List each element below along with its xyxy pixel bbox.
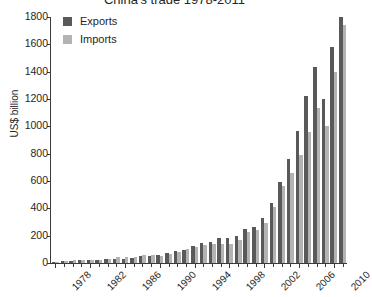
bar-imports-1981 [81,260,84,263]
bar-imports-2007 [308,132,311,263]
x-tick-mark [90,263,91,268]
x-tick-mark [317,263,318,267]
bar-imports-1995 [203,245,206,263]
x-tick-mark [247,263,248,267]
x-tick-mark [108,263,109,267]
bar-imports-1990 [160,256,163,263]
x-tick-mark [308,263,309,267]
x-tick-mark [81,263,82,267]
x-tick-label: 1994 [209,269,233,293]
y-tick-label: 1800 [25,10,48,22]
y-tick-label: 0 [42,256,48,268]
x-tick-mark [299,263,300,268]
y-tick-label: 200 [30,229,48,241]
x-tick-mark [169,263,170,267]
legend-swatch-imports-icon [63,35,72,44]
x-tick-mark [125,263,126,268]
y-tick-label: 1200 [25,92,48,104]
x-tick-mark [273,263,274,267]
bar-imports-1996 [212,244,215,263]
bar-imports-2006 [299,155,302,263]
legend-item-imports: Imports [63,31,117,47]
bar-imports-1997 [221,244,224,263]
bar-imports-2001 [256,230,259,263]
x-tick-mark [186,263,187,267]
bar-imports-1980 [73,260,76,263]
x-tick-mark [142,263,143,267]
x-tick-label: 1998 [244,269,268,293]
bar-imports-1993 [186,249,189,263]
bar-imports-2008 [317,108,320,263]
bar-imports-1987 [134,257,137,263]
x-tick-mark [256,263,257,267]
x-tick-mark [325,263,326,267]
bar-imports-1994 [195,247,198,263]
legend-label-imports: Imports [80,33,117,45]
y-tick-label: 600 [30,174,48,186]
x-tick-mark [221,263,222,267]
bar-imports-1979 [64,261,67,263]
chart-legend: Exports Imports [63,13,117,49]
x-tick-mark [134,263,135,267]
x-tick-mark [151,263,152,267]
x-tick-label: 1982 [105,269,129,293]
bar-imports-1986 [125,257,128,263]
x-tick-mark [55,263,56,268]
x-tick-label: 2006 [314,269,338,293]
legend-label-exports: Exports [80,15,117,27]
bar-imports-2011 [343,25,346,263]
x-tick-mark [238,263,239,267]
bar-imports-1988 [142,255,145,263]
x-tick-mark [212,263,213,267]
bar-imports-1982 [90,260,93,263]
x-tick-mark [264,263,265,268]
x-tick-mark [334,263,335,268]
bar-imports-1983 [99,260,102,263]
x-tick-label: 2002 [279,269,303,293]
y-tick-label: 800 [30,147,48,159]
x-tick-mark [177,263,178,267]
chart-title: China's trade 1978-2011 [0,0,349,7]
bar-imports-2000 [247,232,250,263]
x-tick-mark [343,263,344,267]
x-tick-mark [195,263,196,268]
bar-imports-1984 [108,259,111,263]
bar-imports-2003 [273,207,276,263]
x-tick-mark [203,263,204,267]
y-tick-label: 1400 [25,65,48,77]
bar-imports-2009 [325,126,328,263]
bar-imports-1998 [229,244,232,263]
x-tick-label: 1990 [174,269,198,293]
bar-imports-2002 [264,223,267,263]
bar-imports-1978 [55,262,58,264]
bar-imports-2004 [282,186,285,263]
bar-imports-1985 [116,257,119,263]
x-tick-mark [290,263,291,267]
bar-imports-1992 [177,252,180,263]
x-tick-mark [116,263,117,267]
bar-imports-2010 [334,72,337,263]
legend-swatch-exports-icon [63,17,72,26]
x-tick-mark [64,263,65,267]
plot-area: 020040060080010001200140016001800 197819… [50,17,347,264]
x-tick-mark [282,263,283,267]
bar-imports-1999 [238,240,241,263]
x-tick-mark [99,263,100,267]
x-tick-mark [229,263,230,268]
x-tick-label: 1978 [70,269,94,293]
legend-item-exports: Exports [63,13,117,29]
y-axis-title: US$ billion [9,64,20,164]
x-tick-mark [160,263,161,268]
bar-imports-1991 [169,254,172,263]
y-tick-label: 1000 [25,119,48,131]
bar-imports-2005 [290,173,293,263]
x-tick-label: 2010 [348,269,372,293]
bar-imports-1989 [151,255,154,263]
bar-series-layer [51,17,347,263]
x-tick-mark [73,263,74,267]
y-tick-label: 1600 [25,37,48,49]
y-tick-label: 400 [30,201,48,213]
x-tick-label: 1986 [140,269,164,293]
